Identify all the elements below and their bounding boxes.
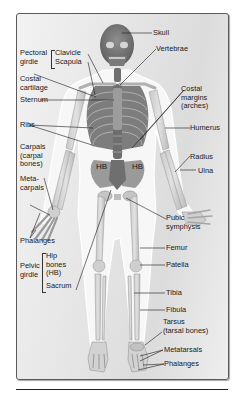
label-vertebrae: Vertebrae bbox=[156, 45, 188, 54]
label-pubic-symphysis: Pubic symphysis bbox=[166, 214, 201, 231]
label-hip-bone-right: HB bbox=[132, 163, 143, 172]
label-costal-margins: Costal margins (arches) bbox=[181, 85, 208, 111]
label-scapula: Scapula bbox=[55, 58, 82, 67]
label-ribs: Ribs bbox=[20, 121, 35, 130]
label-femur: Femur bbox=[166, 244, 187, 253]
label-metacarpals: Meta- carpals bbox=[20, 175, 44, 192]
label-pelvic-girdle: Pelvic girdle bbox=[20, 262, 40, 279]
label-sacrum: Sacrum bbox=[46, 282, 71, 291]
label-sternum: Sternum bbox=[20, 96, 48, 105]
sternum-drawing bbox=[113, 88, 122, 130]
label-metatarsals: Metatarsals bbox=[164, 346, 202, 355]
bottom-divider bbox=[16, 389, 228, 390]
label-tibia: Tibia bbox=[166, 289, 182, 298]
skull-drawing bbox=[100, 24, 134, 66]
label-skull: Skull bbox=[153, 29, 169, 38]
foot-bones bbox=[88, 342, 148, 372]
label-fibula: Fibula bbox=[166, 306, 186, 315]
label-carpals: Carpals (carpal bones) bbox=[20, 143, 45, 169]
label-hip-bones: Hip bones (HB) bbox=[46, 252, 66, 278]
label-phalanges-hand: Phalanges bbox=[20, 237, 55, 246]
label-phalanges-foot: Phalanges bbox=[164, 360, 199, 369]
label-hip-bone-left: HB bbox=[96, 163, 107, 172]
label-patella: Patella bbox=[166, 261, 189, 270]
label-tarsus: Tarsus (tarsal bones) bbox=[163, 318, 208, 335]
label-pectoral-girdle: Pectoral girdle bbox=[20, 49, 47, 66]
label-radius: Radius bbox=[190, 153, 213, 162]
label-ulna: Ulna bbox=[198, 167, 213, 176]
label-costal-cartilage: Costal cartilage bbox=[20, 75, 48, 92]
label-humerus: Humerus bbox=[190, 124, 220, 133]
